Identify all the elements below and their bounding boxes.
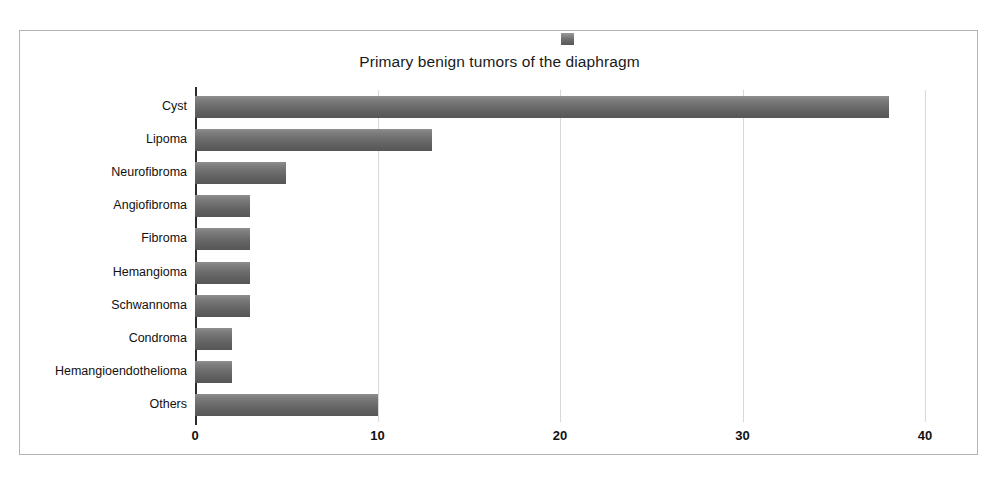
tick-label-20: 20	[553, 428, 567, 443]
tick-label-10: 10	[370, 428, 384, 443]
category-label: Cyst	[0, 99, 187, 113]
plot-area: CystLipomaNeurofibromaAngiofibromaFibrom…	[195, 90, 925, 422]
category-label: Hemangioma	[0, 265, 187, 279]
bar	[195, 295, 250, 317]
chart-title: Primary benign tumors of the diaphragm	[20, 53, 979, 71]
category-label: Fibroma	[0, 231, 187, 245]
gridline-20	[560, 90, 561, 422]
legend-color-swatch-icon	[561, 33, 574, 45]
gridline-40	[925, 90, 926, 422]
bar	[195, 262, 250, 284]
bar-fill	[195, 394, 378, 416]
bar	[195, 328, 232, 350]
chart-frame: Primary benign tumors of the diaphragm C…	[19, 30, 978, 455]
tick-label-0: 0	[191, 428, 198, 443]
bar-fill	[195, 195, 250, 217]
bar-fill	[195, 162, 286, 184]
bar-fill	[195, 328, 232, 350]
category-label: Condroma	[0, 331, 187, 345]
category-axis-labels: CystLipomaNeurofibromaAngiofibromaFibrom…	[0, 90, 187, 422]
category-label: Schwannoma	[0, 298, 187, 312]
bar	[195, 394, 378, 416]
bar-fill	[195, 228, 250, 250]
category-label: Neurofibroma	[0, 165, 187, 179]
bar	[195, 361, 232, 383]
bar-fill	[195, 262, 250, 284]
bar	[195, 228, 250, 250]
gridline-30	[743, 90, 744, 422]
bar-fill	[195, 361, 232, 383]
bar	[195, 129, 432, 151]
tick-label-40: 40	[918, 428, 932, 443]
category-label: Hemangioendothelioma	[0, 364, 187, 378]
tick-label-30: 30	[735, 428, 749, 443]
bar	[195, 162, 286, 184]
category-label: Angiofibroma	[0, 198, 187, 212]
bar	[195, 96, 889, 118]
bar	[195, 195, 250, 217]
bar-fill	[195, 129, 432, 151]
category-label: Others	[0, 397, 187, 411]
bar-fill	[195, 295, 250, 317]
category-label: Lipoma	[0, 132, 187, 146]
bar-fill	[195, 96, 889, 118]
